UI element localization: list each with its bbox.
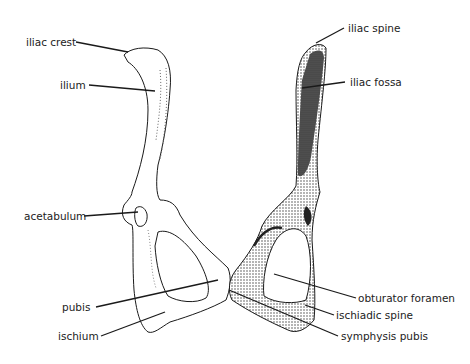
right-hip-bone: [229, 45, 326, 332]
label-iliac-fossa: iliac fossa: [350, 76, 402, 88]
label-pubis: pubis: [62, 301, 90, 313]
label-iliac-spine: iliac spine: [348, 22, 400, 34]
pelvis-diagram: iliac crest ilium acetabulum pubis ischi…: [0, 0, 470, 364]
label-obturator-foramen: obturator foramen: [358, 292, 455, 304]
label-ischium: ischium: [58, 330, 99, 342]
leader-iliac-spine: [316, 28, 344, 43]
label-ilium: ilium: [60, 79, 86, 91]
leader-iliac-crest: [76, 42, 128, 52]
label-iliac-crest: iliac crest: [26, 36, 76, 48]
label-symphysis-pubis: symphysis pubis: [341, 330, 428, 342]
label-acetabulum: acetabulum: [24, 210, 86, 222]
label-ischiadic-spine: ischiadic spine: [336, 309, 413, 321]
